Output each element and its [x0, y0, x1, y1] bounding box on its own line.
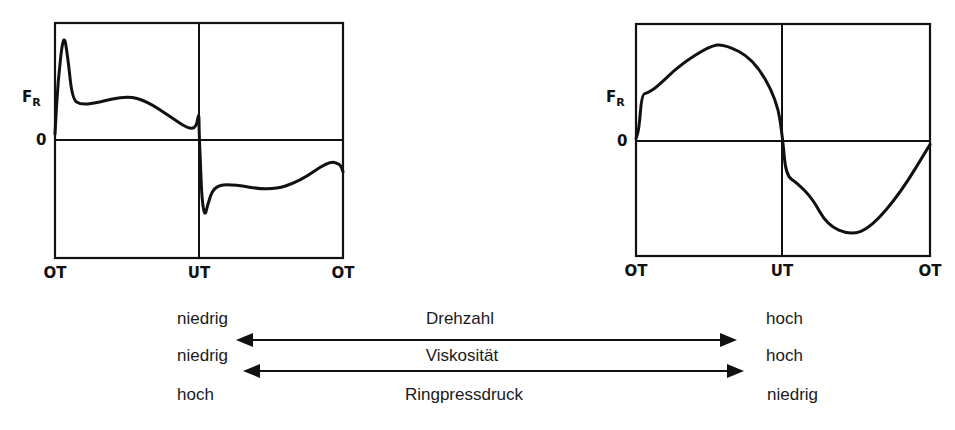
chart-left: FR0OTUTOT	[22, 23, 355, 282]
y-axis-label: FR	[22, 88, 41, 109]
relation-left-ringpressdruck: hoch	[177, 385, 214, 405]
relation-left-drehzahl: niedrig	[177, 309, 228, 329]
zero-label: 0	[617, 132, 627, 150]
x-tick-label-ut: UT	[771, 262, 794, 280]
relation-label-viskositaet: Viskosität	[426, 346, 498, 366]
relation-label-drehzahl: Drehzahl	[426, 309, 494, 329]
x-tick-label-ot: OT	[44, 264, 68, 282]
relation-right-viskositaet: hoch	[766, 346, 803, 366]
relation-right-drehzahl: hoch	[766, 309, 803, 329]
chart-right: FR0OTUTOT	[606, 24, 942, 280]
relation-right-ringpressdruck: niedrig	[767, 385, 818, 405]
y-axis-label-subscript: R	[616, 96, 625, 109]
x-tick-label-ot: OT	[919, 262, 943, 280]
arrow-drehzahl-viskositaet	[236, 333, 737, 347]
zero-label: 0	[36, 131, 46, 149]
x-tick-label-ot: OT	[625, 262, 649, 280]
arrow-viskositaet-ringpressdruck	[243, 364, 744, 378]
x-tick-label-ot: OT	[332, 264, 356, 282]
relation-left-viskositaet: niedrig	[177, 346, 228, 366]
relation-label-ringpressdruck: Ringpressdruck	[405, 385, 523, 405]
y-axis-label: FR	[606, 88, 625, 109]
x-tick-label-ut: UT	[188, 264, 211, 282]
y-axis-label-subscript: R	[32, 96, 41, 109]
